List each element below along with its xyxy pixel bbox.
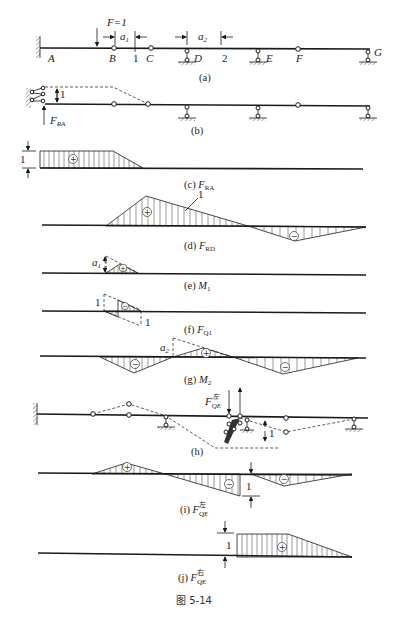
panel-c-influence-line: + 1 (c) FRA <box>20 141 363 192</box>
unit-label: 1 <box>198 188 204 200</box>
point-b-label: B <box>109 52 116 64</box>
point-e-label: E <box>265 52 273 64</box>
roller-support-e-icon <box>249 49 267 65</box>
point-a-label: A <box>47 52 55 64</box>
panel-i-caption: (i) F左QE <box>180 500 208 518</box>
panel-d-caption: (d) FRD <box>184 240 215 253</box>
hinge-c-icon <box>149 46 154 51</box>
hinge-f-icon <box>296 47 301 52</box>
point-d-label: D <box>193 52 202 64</box>
svg-text:−: − <box>122 303 128 311</box>
influence-line-figure: F=1 a1 a2 A B 1 C D 2 <box>0 0 396 628</box>
svg-text:−: − <box>291 232 298 241</box>
shear-force-label: F左QE <box>204 393 222 410</box>
svg-text:+: + <box>144 208 151 217</box>
panel-b-structure: 1 FRA (b) <box>26 86 377 137</box>
panel-h-caption: (h) <box>191 446 204 458</box>
unit-label: 1 <box>226 539 232 551</box>
figure-caption: 图 5-14 <box>176 595 212 606</box>
panel-a-structure: F=1 a1 a2 A B 1 C D 2 <box>36 16 382 84</box>
reaction-label: FRA <box>49 114 66 128</box>
point-f-label: F <box>295 52 303 64</box>
unit-label: 1 <box>20 153 26 165</box>
panel-a-caption: (a) <box>199 72 211 84</box>
unit-left-label: 1 <box>95 296 101 308</box>
svg-text:+: + <box>124 463 131 472</box>
panel-d-influence-line: + − 1 (d) FRD <box>42 188 366 253</box>
panel-i-influence-line: + − − 1 (i) F左QE <box>38 462 352 518</box>
panel-f-caption: (f) FQ1 <box>184 324 213 337</box>
section-2-label: 2 <box>222 52 228 64</box>
panel-h-structure: F左QE 1 (h) <box>33 388 368 458</box>
unit-right-label: 1 <box>145 316 151 328</box>
hinge-b-icon <box>112 46 117 51</box>
fixed-wall-icon <box>36 36 40 58</box>
svg-text:−: − <box>226 480 233 489</box>
panel-b-caption: (b) <box>191 125 204 137</box>
svg-text:+: + <box>70 155 77 164</box>
section-1-label: 1 <box>133 52 139 64</box>
unit-label: 1 <box>246 480 252 492</box>
svg-text:+: + <box>279 543 286 552</box>
panel-j-caption: (j) F右QE <box>178 568 206 586</box>
a1-label: a1 <box>120 30 129 44</box>
sliding-support-icon <box>26 86 45 108</box>
height-a2-label: a2 <box>160 341 170 355</box>
point-c-label: C <box>146 52 154 64</box>
panel-e-influence-line: a1 + (e) M1 <box>42 256 366 293</box>
beam-line <box>40 48 370 49</box>
svg-text:−: − <box>132 360 139 369</box>
point-g-label: G <box>374 46 382 58</box>
svg-text:+: + <box>203 349 210 358</box>
panel-e-caption: (e) M1 <box>184 280 211 293</box>
svg-text:+: + <box>120 265 126 273</box>
panel-j-influence-line: + 1 (j) F右QE <box>38 521 352 586</box>
height-a1-label: a1 <box>92 256 101 270</box>
svg-text:−: − <box>281 475 288 484</box>
unit-label: 1 <box>269 427 275 439</box>
load-label: F=1 <box>106 16 127 28</box>
shear-release-mechanism-icon <box>224 414 254 444</box>
unit-label: 1 <box>60 88 66 100</box>
panel-g-influence-line: − + − a2 (g) M2 <box>40 338 366 387</box>
a2-label: a2 <box>198 30 208 44</box>
panel-g-caption: (g) M2 <box>184 374 212 387</box>
svg-text:−: − <box>282 363 289 372</box>
panel-f-influence-line: − 1 1 (f) FQ1 <box>42 294 366 337</box>
